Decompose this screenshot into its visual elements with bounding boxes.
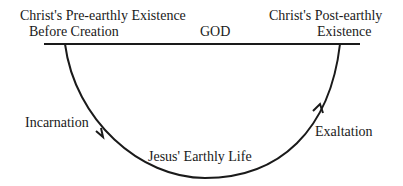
exaltation-label: Exaltation: [315, 124, 373, 140]
pre-earthly-label-line2: Before Creation: [29, 24, 119, 40]
exaltation-arrow-icon: [313, 104, 323, 113]
god-label: GOD: [200, 24, 230, 40]
christology-diagram: Christ's Pre-earthly Existence Before Cr…: [0, 0, 403, 186]
incarnation-label: Incarnation: [25, 115, 89, 131]
incarnation-arrow-icon: [96, 128, 103, 137]
post-earthly-label-line1: Christ's Post-earthly: [269, 8, 382, 24]
pre-earthly-label-line1: Christ's Pre-earthly Existence: [20, 8, 186, 24]
post-earthly-label-line2: Existence: [317, 24, 371, 40]
earthly-life-label: Jesus' Earthly Life: [148, 149, 252, 165]
